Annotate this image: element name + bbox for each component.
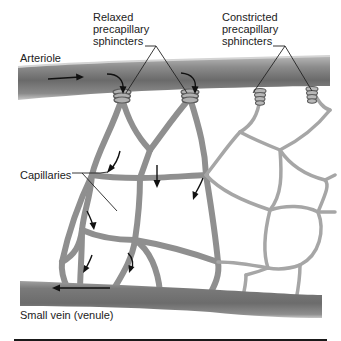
sphincter-constricted-1 [254, 89, 266, 106]
label-venule: Small vein (venule) [20, 309, 114, 321]
capillary-flow-arrow-icon [87, 211, 97, 230]
capillary-flow-arrow-icon [107, 151, 120, 173]
capillary-flow-arrow-icon [193, 178, 204, 200]
label-arteriole: Arteriole [20, 52, 61, 64]
label-capillaries: Capillaries [20, 169, 71, 181]
label-relaxed-sphincters: Relaxed precapillary sphincters [93, 11, 149, 47]
sphincter-constricted-2 [306, 87, 318, 104]
label-constricted-sphincters: Constricted precapillary sphincters [222, 11, 278, 47]
capillary-flow-arrow-icon [83, 255, 92, 273]
